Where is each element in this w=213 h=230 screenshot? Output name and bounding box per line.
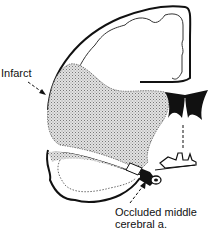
brain-diagram [0,0,213,230]
ventricle [165,90,208,120]
occluded-artery-label-line2: cerebral a. [115,218,167,230]
occluded-artery-label-line1: Occluded middle [115,206,197,218]
infarct-label: Infarct [1,67,32,79]
temporal-inner-line [58,160,136,192]
infarct-arrow-line [28,82,42,92]
cortex-inner-line [74,14,183,79]
occlusion-arrowhead [140,181,146,189]
infarct-arrowhead [39,89,46,95]
occlusion-arrow-line [130,186,143,203]
